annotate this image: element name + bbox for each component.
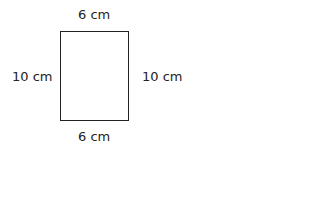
rectangle-shape [60, 31, 129, 121]
left-side-label: 10 cm [12, 69, 53, 84]
top-side-label: 6 cm [78, 7, 110, 22]
bottom-side-label: 6 cm [78, 129, 110, 144]
right-side-label: 10 cm [142, 69, 183, 84]
